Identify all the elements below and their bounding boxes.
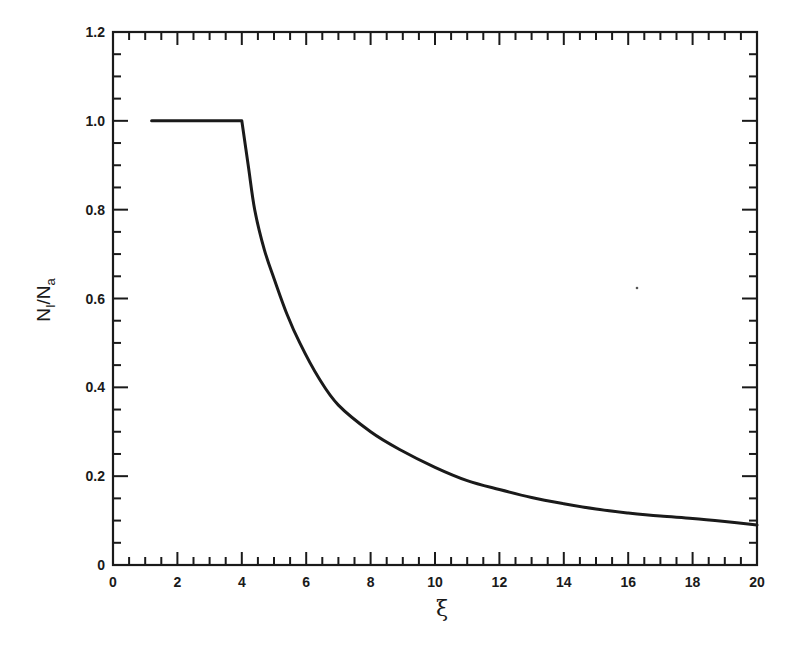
y-tick-label: 0 [97,557,105,573]
x-axis-label: ξ [436,596,448,621]
x-tick-label: 2 [174,574,182,590]
y-axis-label: NI/Na [33,277,58,321]
y-axis-label-sub-a: a [43,277,58,285]
y-axis-label-n1: N [33,308,54,322]
major-ticks [113,32,757,565]
x-tick-label: 16 [620,574,636,590]
x-tick-label: 8 [367,574,375,590]
chart: 02468101214161820 00.20.40.60.81.01.2 ξ … [0,0,795,659]
scan-speck [636,287,639,290]
x-tick-label: 6 [302,574,310,590]
y-tick-label: 0.8 [86,202,106,218]
y-tick-label: 1.0 [86,113,106,129]
y-tick-label: 0.4 [86,379,106,395]
y-tick-label: 1.2 [86,24,106,40]
y-tick-label: 0.2 [86,468,106,484]
x-tick-label: 12 [492,574,508,590]
y-tick-labels: 00.20.40.60.81.01.2 [86,24,106,573]
data-series-line [152,121,757,525]
x-tick-label: 18 [685,574,701,590]
x-tick-label: 4 [238,574,246,590]
minor-ticks [113,32,757,565]
y-axis-label-n2: N [33,285,54,299]
plot-frame [113,32,757,565]
y-tick-label: 0.6 [86,291,106,307]
x-tick-label: 0 [109,574,117,590]
x-tick-label: 10 [427,574,443,590]
x-tick-label: 20 [749,574,765,590]
x-tick-label: 14 [556,574,572,590]
x-tick-labels: 02468101214161820 [109,574,765,590]
